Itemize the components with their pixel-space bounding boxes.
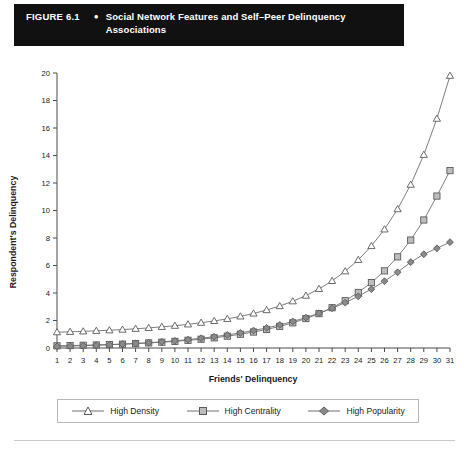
x-axis-title: Friends' Delinquency bbox=[209, 374, 298, 384]
x-tick-label: 2 bbox=[68, 356, 72, 365]
legend-label-high-centrality: High Centrality bbox=[225, 406, 281, 416]
x-axis: 1234567891011121314151617181920212223242… bbox=[55, 348, 454, 365]
footer-divider bbox=[14, 440, 455, 441]
y-tick-label: 8 bbox=[46, 234, 50, 243]
figure-number-label: FIGURE 6.1 bbox=[26, 11, 80, 22]
x-tick-label: 21 bbox=[315, 356, 323, 365]
triangle-up-marker bbox=[302, 292, 309, 298]
square-marker bbox=[368, 279, 374, 285]
y-tick-label: 20 bbox=[42, 69, 50, 78]
x-tick-label: 18 bbox=[275, 356, 283, 365]
triangle-up-marker bbox=[407, 181, 414, 187]
x-tick-label: 9 bbox=[160, 356, 164, 365]
square-marker bbox=[395, 254, 401, 260]
x-tick-label: 26 bbox=[380, 356, 388, 365]
x-tick-label: 6 bbox=[120, 356, 124, 365]
legend-item-high-density: High Density bbox=[71, 405, 159, 417]
y-tick-label: 2 bbox=[46, 316, 50, 325]
y-tick-label: 12 bbox=[42, 179, 50, 188]
chart-plot-area: 02468101214161820 1234567891011121314151… bbox=[0, 52, 471, 392]
x-tick-label: 16 bbox=[249, 356, 257, 365]
triangle-up-marker-icon bbox=[71, 405, 105, 417]
x-tick-label: 29 bbox=[420, 356, 428, 365]
x-tick-label: 14 bbox=[223, 356, 231, 365]
x-tick-label: 23 bbox=[341, 356, 349, 365]
chart-legend: High Density High Centrality High Popula… bbox=[57, 399, 419, 423]
x-tick-label: 11 bbox=[184, 356, 192, 365]
x-tick-label: 27 bbox=[393, 356, 401, 365]
legend-label-high-density: High Density bbox=[110, 406, 159, 416]
square-marker bbox=[434, 193, 440, 199]
y-tick-label: 4 bbox=[46, 289, 50, 298]
figure-title-bar: FIGURE 6.1 ● Social Network Features and… bbox=[14, 4, 404, 46]
diamond-marker bbox=[447, 239, 454, 246]
bullet-icon: ● bbox=[80, 11, 106, 22]
x-tick-label: 12 bbox=[197, 356, 205, 365]
triangle-up-marker bbox=[315, 285, 322, 291]
y-axis: 02468101214161820 bbox=[42, 69, 57, 353]
x-tick-label: 1 bbox=[55, 356, 59, 365]
y-tick-label: 6 bbox=[46, 261, 50, 270]
x-tick-label: 31 bbox=[446, 356, 454, 365]
x-tick-label: 15 bbox=[236, 356, 244, 365]
x-tick-label: 24 bbox=[354, 356, 362, 365]
y-tick-label: 0 bbox=[46, 344, 50, 353]
square-marker bbox=[447, 168, 453, 174]
series-high-density bbox=[53, 72, 453, 335]
y-tick-label: 18 bbox=[42, 96, 50, 105]
x-tick-label: 4 bbox=[94, 356, 98, 365]
diamond-marker-icon bbox=[307, 405, 341, 417]
series-high-centrality bbox=[54, 168, 453, 349]
x-tick-label: 20 bbox=[302, 356, 310, 365]
triangle-up-marker bbox=[329, 277, 336, 283]
x-tick-label: 22 bbox=[328, 356, 336, 365]
legend-item-high-centrality: High Centrality bbox=[186, 405, 281, 417]
triangle-up-marker bbox=[381, 226, 388, 232]
triangle-up-marker bbox=[289, 298, 296, 304]
diamond-marker bbox=[434, 245, 441, 252]
line-chart: 02468101214161820 1234567891011121314151… bbox=[0, 52, 471, 392]
x-tick-label: 5 bbox=[107, 356, 111, 365]
y-tick-label: 16 bbox=[42, 124, 50, 133]
triangle-up-marker bbox=[420, 151, 427, 157]
triangle-up-marker bbox=[433, 115, 440, 121]
x-tick-label: 10 bbox=[171, 356, 179, 365]
x-tick-label: 8 bbox=[147, 356, 151, 365]
x-tick-label: 28 bbox=[406, 356, 414, 365]
x-tick-label: 7 bbox=[133, 356, 137, 365]
square-marker bbox=[421, 217, 427, 223]
x-tick-label: 19 bbox=[289, 356, 297, 365]
triangle-up-marker bbox=[446, 72, 453, 78]
x-tick-label: 30 bbox=[433, 356, 441, 365]
data-series-group bbox=[53, 72, 453, 350]
legend-label-high-popularity: High Popularity bbox=[346, 406, 404, 416]
diamond-marker bbox=[381, 278, 388, 285]
x-tick-label: 25 bbox=[367, 356, 375, 365]
figure-title-text: Social Network Features and Self–Peer De… bbox=[106, 11, 376, 36]
square-marker-icon bbox=[186, 405, 220, 417]
x-tick-label: 13 bbox=[210, 356, 218, 365]
y-tick-label: 14 bbox=[42, 151, 50, 160]
legend-item-high-popularity: High Popularity bbox=[307, 405, 404, 417]
diamond-marker bbox=[368, 286, 375, 293]
triangle-up-marker bbox=[394, 206, 401, 212]
x-tick-label: 17 bbox=[262, 356, 270, 365]
square-marker bbox=[381, 268, 387, 274]
diamond-marker bbox=[420, 251, 427, 258]
x-tick-label: 3 bbox=[81, 356, 85, 365]
square-marker bbox=[408, 237, 414, 243]
y-axis-title: Respondent's Delinquency bbox=[8, 176, 18, 289]
y-tick-label: 10 bbox=[42, 206, 50, 215]
